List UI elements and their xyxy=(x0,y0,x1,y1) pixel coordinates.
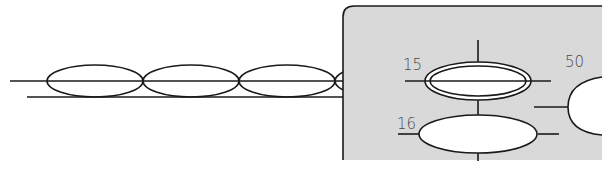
stitch-diagram: 15 16 50 xyxy=(0,0,615,179)
stitch-16-loop xyxy=(419,115,537,153)
stitch-50-label: 50 xyxy=(565,53,584,71)
stitch-16-label: 16 xyxy=(397,115,416,133)
stitch-15-label: 15 xyxy=(403,56,422,74)
detail-panel: 15 16 50 xyxy=(343,6,602,161)
